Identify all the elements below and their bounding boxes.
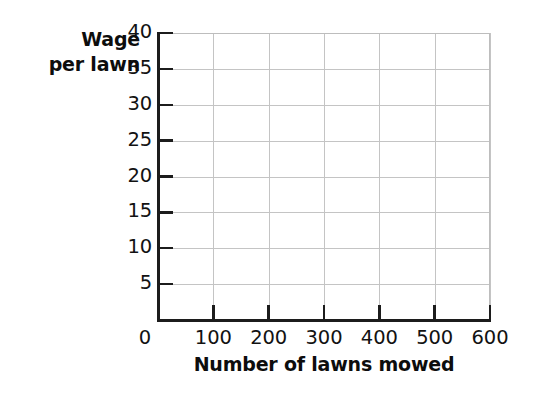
y-axis-tick-label: 25	[106, 128, 152, 151]
x-axis-tick	[212, 305, 214, 320]
x-axis-tick-label: 600	[455, 326, 525, 349]
y-axis-tick	[158, 139, 173, 141]
y-axis-tick	[158, 175, 173, 177]
x-axis-tick	[378, 305, 380, 320]
gridline-vertical	[324, 33, 325, 320]
y-axis-tick	[158, 68, 173, 70]
x-axis-tick	[489, 305, 491, 320]
gridline-vertical	[213, 33, 214, 320]
y-axis-tick-label: 30	[106, 92, 152, 115]
y-axis-tick-label: 15	[106, 199, 152, 222]
gridline-vertical	[435, 33, 436, 320]
y-axis-tick	[158, 32, 173, 34]
x-axis-tick-label: 0	[110, 326, 180, 349]
y-axis-tick	[158, 283, 173, 285]
chart-figure: 510152025303540 0100200300400500600 Wage…	[0, 0, 535, 397]
x-axis-tick	[323, 305, 325, 320]
x-axis-tick	[267, 305, 269, 320]
y-axis-title: Wage per lawn	[8, 27, 140, 78]
gridline-vertical	[490, 33, 491, 320]
gridline-vertical	[379, 33, 380, 320]
y-axis-title-line-1: Wage	[8, 27, 140, 52]
y-axis-tick-label: 20	[106, 164, 152, 187]
y-axis-tick-label: 10	[106, 235, 152, 258]
y-axis-tick-label: 5	[106, 271, 152, 294]
plot-area	[158, 33, 490, 320]
gridline-vertical	[269, 33, 270, 320]
x-axis-tick	[433, 305, 435, 320]
y-axis-tick	[158, 211, 173, 213]
x-axis-title: Number of lawns mowed	[158, 353, 490, 375]
y-axis-tick	[158, 104, 173, 106]
y-axis-tick	[158, 247, 173, 249]
y-axis-title-line-2: per lawn	[8, 52, 140, 77]
